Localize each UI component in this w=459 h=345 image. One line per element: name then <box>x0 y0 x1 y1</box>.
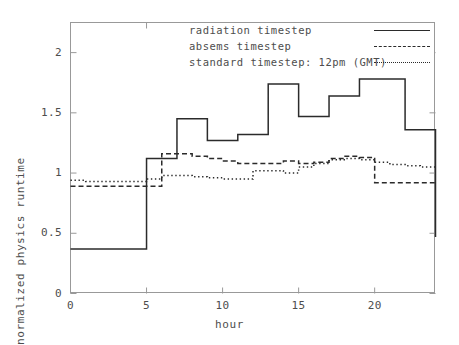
series-dashed <box>71 154 436 187</box>
legend-key-solid-icon <box>374 30 430 31</box>
x-tick-label: 20 <box>355 299 395 312</box>
data-series-group <box>71 79 436 249</box>
legend-key-dashed-icon <box>374 46 430 47</box>
chart-figure: normalized physics runtime 00.511.52 051… <box>0 0 459 345</box>
legend-key-dotted-icon <box>374 62 430 63</box>
legend-item-absems: absems timestep <box>176 39 434 55</box>
legend-label-standard: standard timestep: 12pm (GMT) <box>189 56 387 68</box>
chart-legend: radiation timestep absems timestep stand… <box>176 23 434 73</box>
y-tick-label: 2 <box>8 46 62 59</box>
x-tick-label: 15 <box>279 299 319 312</box>
y-tick-label: 1 <box>8 166 62 179</box>
x-tick-label: 10 <box>203 299 243 312</box>
legend-item-radiation: radiation timestep <box>176 23 434 39</box>
legend-label-absems: absems timestep <box>189 40 291 52</box>
legend-label-radiation: radiation timestep <box>189 24 312 36</box>
y-tick-label: 1.5 <box>8 106 62 119</box>
legend-item-standard: standard timestep: 12pm (GMT) <box>176 55 434 71</box>
y-tick-label: 0.5 <box>8 226 62 239</box>
x-axis-title: hour <box>0 318 459 331</box>
x-tick-label: 5 <box>127 299 167 312</box>
series-dotted <box>71 159 436 182</box>
x-tick-label: 0 <box>51 299 91 312</box>
y-tick-label: 0 <box>8 287 62 300</box>
